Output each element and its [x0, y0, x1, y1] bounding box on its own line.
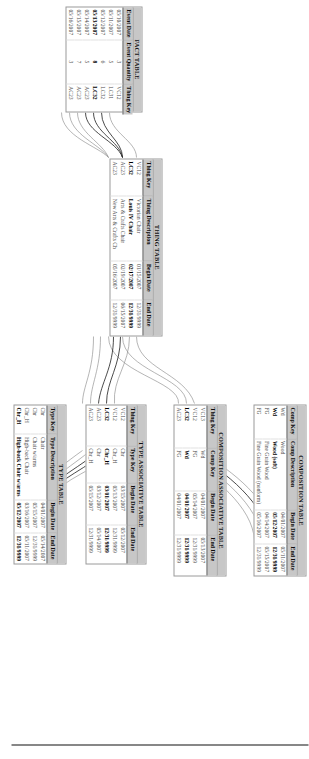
cell-begin-date: 04/01/2007	[199, 490, 208, 534]
cell-event-quantity: 7	[75, 39, 83, 83]
cell-thing-key: VC12	[135, 159, 144, 196]
column-header-comp-key: Comp Key	[207, 447, 217, 490]
composition-associative-table-body: VC13Wd04/01/200705/13/2007VC12FG05/14/20…	[175, 405, 208, 575]
cell-end-date: 12/31/9999	[255, 544, 263, 575]
cell-end-date: 05/13/2007	[199, 534, 208, 575]
column-header-event-date: Event Date	[123, 7, 133, 39]
cell-begin-date: 05/16/2007	[111, 261, 119, 300]
cell-thing-key: VC12	[119, 405, 128, 445]
table-row: 05/12/20076LC32	[99, 7, 107, 114]
column-header-begin-date: Begin Date	[143, 261, 153, 300]
cell-thing-key: AC23	[175, 405, 183, 447]
cell-begin-date: 02/19/2007	[119, 261, 127, 300]
type-table-caption: TYPE TABLE	[57, 405, 66, 563]
table-header-row: Event Date Event Quantity Thing Key	[123, 7, 133, 114]
table-header-row: Type Key Type Description Begin Date End…	[47, 405, 57, 563]
thing-table-grid: Thing Key Thing Description Begin Date E…	[111, 159, 153, 335]
cell-begin-date: 04/01/2007	[183, 490, 191, 534]
table-row: VC12FG05/14/200712/31/9999	[191, 405, 199, 575]
cell-event-quantity: 8	[91, 39, 99, 83]
table-header-row: Thing Key Thing Description Begin Date E…	[143, 159, 153, 335]
cell-event-date: 05/13/2007	[91, 7, 99, 39]
table-row: 05/14/20075AC23	[83, 7, 91, 114]
composition-table: COMPOSITION TABLE Comp Key Comp Descript…	[254, 404, 306, 576]
cell-comp-key: Wd	[199, 447, 208, 490]
column-header-comp-description: Comp Description	[287, 438, 297, 509]
cell-thing-key: AC23	[111, 159, 119, 196]
cell-end-date: 12/31/9999	[111, 524, 119, 563]
cell-comp-description: Wood (soft)	[271, 438, 279, 509]
cell-comp-key: FG	[191, 447, 199, 490]
cell-type-key: Chr_H	[111, 445, 119, 482]
cell-event-quantity: 6	[99, 39, 107, 83]
column-header-thing-key: Thing Key	[127, 405, 137, 445]
column-header-begin-date: Begin Date	[287, 509, 297, 543]
cell-begin-date: 02/17/2007	[127, 261, 135, 300]
column-header-end-date: End Date	[287, 544, 297, 575]
table-row: VC12Chr_H05/13/200712/31/9999	[111, 405, 119, 563]
column-header-thing-description: Thing Description	[143, 196, 153, 261]
type-table-body: ChrChair04/01/200705/14/2007ChrChair w/a…	[15, 405, 48, 563]
cell-begin-date: 04/01/2007	[279, 509, 288, 543]
composition-table-body: WdWood04/01/200705/11/2007WdWood (soft)0…	[255, 405, 288, 575]
cell-end-date: 12/31/9999	[111, 300, 119, 335]
cell-type-key: Chr_H	[87, 445, 95, 482]
fact-table-caption: FACT TABLE	[133, 7, 142, 111]
cell-event-date: 05/11/2007	[107, 7, 115, 39]
cell-end-date: 12/31/9999	[31, 533, 39, 563]
cell-thing-key: VC12	[115, 83, 124, 114]
cell-comp-key: Wd	[279, 405, 288, 438]
table-row: AC23FG04/01/200712/31/9999	[175, 405, 183, 575]
cell-thing-key: VC13	[199, 405, 208, 447]
cell-type-key: Chr	[39, 405, 48, 434]
column-header-event-quantity: Event Quantity	[123, 39, 133, 83]
column-header-end-date: End Date	[127, 524, 137, 563]
cell-comp-description: Wood	[279, 438, 288, 509]
column-header-comp-key: Comp Key	[287, 405, 297, 438]
table-row: AC23Chr_H05/15/200712/31/9999	[87, 405, 95, 563]
cell-end-date: 12/31/9999	[271, 544, 279, 575]
table-row: WdWood04/01/200705/11/2007	[279, 405, 288, 575]
cell-thing-key: AC23	[119, 159, 127, 196]
table-row: 05/16/20073AC23	[67, 7, 75, 114]
cell-thing-key: LC31	[107, 83, 115, 114]
cell-event-quantity: 5	[107, 39, 115, 83]
cell-thing-key: AC23	[87, 405, 95, 445]
cell-begin-date: 05/15/2007	[87, 482, 95, 524]
cell-event-quantity: 3	[67, 39, 75, 83]
cell-type-key: Chr_H	[15, 405, 23, 434]
cell-begin-date: 03/16/2007	[23, 499, 31, 532]
column-header-type-key: Type Key	[127, 445, 137, 482]
cell-end-date: 05/11/2007	[23, 533, 31, 563]
table-row: 05/15/20077AC23	[75, 7, 83, 114]
table-row: FGFine Grain Wood (nonform)05/16/200712/…	[255, 405, 263, 575]
cell-type-key: Chr	[95, 445, 103, 482]
table-row: ChrChair04/01/200705/14/2007	[39, 405, 48, 563]
cell-type-description: High-back Chair w/arms	[15, 434, 23, 500]
cell-thing-key: AC23	[95, 405, 103, 445]
composition-associative-table-caption: COMPOSITION ASSOCIATIVE TABLE	[217, 405, 226, 575]
table-row: VC12Victorian Chair01/15/200712/31/9999	[135, 159, 144, 335]
cell-event-date: 05/12/2007	[99, 7, 107, 39]
cell-type-key: Chr_H	[103, 445, 111, 482]
cell-end-date: 12/31/9999	[135, 300, 144, 335]
cell-comp-key: FG	[175, 447, 183, 490]
table-row: AC23Arts & Crafts Chair02/19/200706/15/2…	[119, 159, 127, 335]
cell-event-date: 05/16/2007	[67, 7, 75, 39]
cell-comp-key: Wd	[271, 405, 279, 438]
table-row: WdWood (soft)05/12/200712/31/9999	[271, 405, 279, 575]
table-row: VC13Wd04/01/200705/13/2007	[199, 405, 208, 575]
cell-event-date: 05/15/2007	[75, 7, 83, 39]
table-row: 05/11/20075LC31	[107, 7, 115, 114]
cell-type-key: Chr	[31, 405, 39, 434]
table-row: AC23New Arts & Crafts Ch05/16/200712/31/…	[111, 159, 119, 335]
cell-thing-description: New Arts & Crafts Ch	[111, 196, 119, 261]
cell-end-date: 05/11/2007	[279, 544, 288, 575]
table-row: 05/13/20078LC32	[91, 7, 99, 114]
cell-thing-key: AC23	[67, 83, 75, 114]
cell-event-date: 05/14/2007	[83, 7, 91, 39]
column-header-end-date: End Date	[47, 533, 57, 563]
table-row: Chr_HHigh-back Chair w/arms05/12/200712/…	[15, 405, 23, 563]
table-row: LC32Chr_H03/01/200712/31/9999	[103, 405, 111, 563]
cell-event-date: 05/10/2007	[115, 7, 124, 39]
